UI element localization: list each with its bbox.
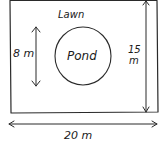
lawn-height-unit: m [129,55,139,66]
pond-label: Pond [67,49,97,63]
lawn-height-value: 15 [128,44,141,55]
lawn-height-arrow [143,1,149,112]
pond-diameter-label: 8 m [13,47,34,60]
lawn-width-label: 20 m [64,129,92,142]
lawn-width-arrow [9,121,157,127]
lawn-label: Lawn [58,9,84,20]
lawn-diagram: Lawn Pond 8 m 15 m 20 m [0,0,168,143]
